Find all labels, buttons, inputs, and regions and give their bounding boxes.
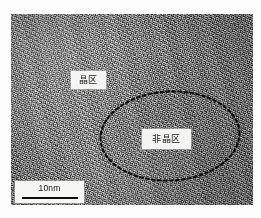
scale-bar: 10nm <box>15 181 84 203</box>
figure-canvas: 晶区 非晶区 10nm <box>0 0 261 218</box>
scale-bar-line <box>22 197 78 199</box>
tem-micrograph-image: 晶区 非晶区 10nm <box>11 14 253 205</box>
scale-bar-label: 10nm <box>15 183 84 193</box>
crystalline-region-label: 晶区 <box>71 71 106 89</box>
amorphous-region-label: 非晶区 <box>142 129 191 149</box>
micrograph-vignette <box>11 14 253 205</box>
